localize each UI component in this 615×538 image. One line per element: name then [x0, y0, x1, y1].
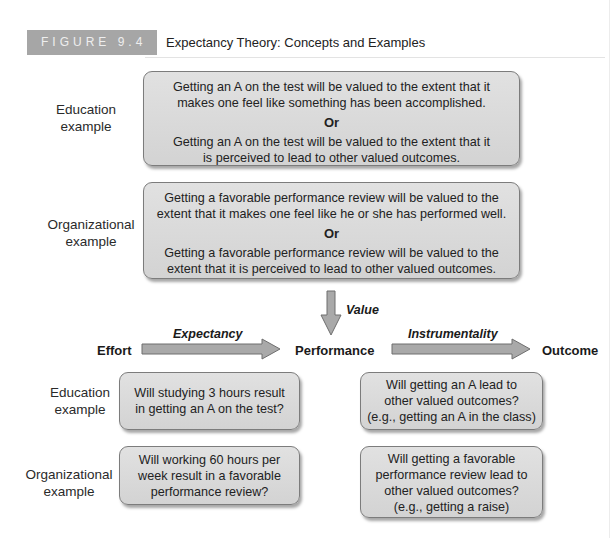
box-text: other valued outcomes? — [361, 483, 542, 499]
node-effort: Effort — [97, 343, 132, 358]
page-edge-divider — [609, 0, 610, 538]
box-text: Will studying 3 hours result — [120, 385, 299, 401]
expectancy-arrow-right-icon — [141, 338, 281, 360]
expectancy-education-box: Will studying 3 hours result in getting … — [119, 372, 300, 430]
label-line: example — [24, 483, 114, 500]
box-text: is perceived to lead to other valued out… — [144, 150, 519, 166]
or-separator: Or — [144, 114, 519, 132]
label-line: example — [46, 233, 136, 250]
label-line: example — [38, 401, 122, 418]
box-text: extent that it makes one feel like he or… — [144, 206, 519, 222]
value-organizational-label: Organizational example — [46, 216, 136, 250]
title-divider — [145, 57, 605, 58]
box-text: in getting an A on the test? — [120, 401, 299, 417]
box-text: performance review lead to — [361, 467, 542, 483]
example-education-label: Education example — [38, 384, 122, 418]
node-outcome: Outcome — [542, 343, 598, 358]
label-line: Education — [38, 384, 122, 401]
label-line: example — [44, 118, 128, 135]
value-organizational-box: Getting a favorable performance review w… — [143, 182, 520, 279]
label-line: Education — [44, 101, 128, 118]
box-text: other valued outcomes? — [361, 393, 542, 409]
value-label: Value — [346, 303, 379, 317]
example-organizational-label: Organizational example — [24, 466, 114, 500]
box-text: Will getting an A lead to — [361, 377, 542, 393]
or-separator: Or — [144, 225, 519, 243]
value-education-box: Getting an A on the test will be valued … — [143, 71, 520, 166]
box-text: (e.g., getting an A in the class) — [361, 409, 542, 425]
label-line: Organizational — [24, 466, 114, 483]
node-performance: Performance — [295, 343, 374, 358]
expectancy-organizational-box: Will working 60 hours per week result in… — [119, 446, 300, 505]
instrumentality-organizational-box: Will getting a favorable performance rev… — [360, 446, 543, 518]
figure-title: Expectancy Theory: Concepts and Examples — [166, 35, 425, 50]
box-text: performance review? — [120, 484, 299, 500]
box-text: week result in a favorable — [120, 468, 299, 484]
box-text: extent that it is perceived to lead to o… — [144, 261, 519, 277]
box-text: makes one feel like something has been a… — [144, 95, 519, 111]
figure-badge: FIGURE 9.4 — [27, 30, 157, 55]
box-text: Getting a favorable performance review w… — [144, 190, 519, 206]
box-text: Getting an A on the test will be valued … — [144, 134, 519, 150]
value-education-label: Education example — [44, 101, 128, 135]
box-text: Will working 60 hours per — [120, 452, 299, 468]
box-text: Will getting a favorable — [361, 451, 542, 467]
instrumentality-education-box: Will getting an A lead to other valued o… — [360, 372, 543, 430]
box-text: (e.g., getting a raise) — [361, 499, 542, 515]
instrumentality-arrow-right-icon — [391, 338, 531, 360]
label-line: Organizational — [46, 216, 136, 233]
value-arrow-down-icon — [320, 291, 342, 337]
box-text: Getting an A on the test will be valued … — [144, 79, 519, 95]
box-text: Getting a favorable performance review w… — [144, 245, 519, 261]
